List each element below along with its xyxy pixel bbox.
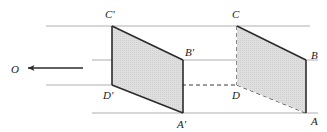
label-A: A [310,115,318,127]
diagram-canvas: O C' B' D' A' C B D A [0,0,327,132]
label-D: D [231,89,240,101]
label-A-prime: A' [176,118,187,130]
label-B-prime: B' [185,46,195,58]
far-face-CBAD [237,26,306,113]
label-D-prime: D' [102,89,114,101]
near-face-CBAD-prime [112,26,183,113]
label-C: C [232,8,240,20]
label-O: O [11,63,19,75]
projection-diagram: O C' B' D' A' C B D A [0,0,327,132]
label-C-prime: C' [105,8,115,20]
label-B: B [311,49,318,61]
